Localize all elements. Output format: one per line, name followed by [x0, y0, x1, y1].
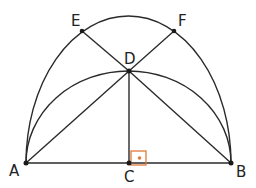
label-d: D	[124, 50, 136, 68]
segment-df	[129, 31, 174, 71]
label-b: B	[236, 163, 246, 181]
label-e: E	[71, 12, 80, 30]
label-f: F	[178, 12, 187, 30]
point-b	[229, 161, 234, 166]
label-c: C	[124, 168, 134, 186]
label-a: A	[9, 162, 20, 180]
point-d	[127, 69, 132, 74]
point-c	[127, 161, 132, 166]
segment-de	[82, 31, 129, 71]
right-angle-dot	[138, 156, 142, 160]
point-a	[24, 161, 29, 166]
point-f	[172, 29, 177, 34]
geometry-diagram: A B C D E F	[0, 0, 256, 188]
